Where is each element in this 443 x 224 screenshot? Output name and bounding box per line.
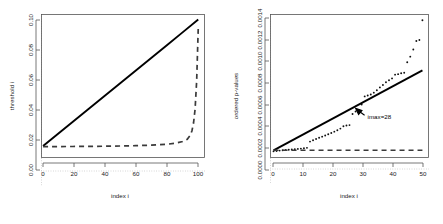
y-tick-label: 0.08 — [27, 43, 34, 56]
x-tick-label: 80 — [164, 170, 171, 177]
x-tick-label: 60 — [133, 170, 140, 177]
imax-arrow-icon — [356, 108, 365, 115]
scatter-point — [388, 79, 390, 81]
scatter-point — [309, 141, 311, 143]
scatter-point — [303, 147, 305, 149]
y-tick-label: 0.06 — [27, 73, 34, 86]
scatter-point — [394, 74, 396, 76]
scatter-point — [288, 149, 290, 151]
plot-frame-left — [42, 15, 205, 158]
scatter-point — [385, 81, 387, 83]
scatter-point — [315, 138, 317, 140]
x-ticks-left — [43, 163, 198, 167]
scatter-point — [403, 72, 405, 74]
scatter-point — [397, 73, 399, 75]
x-tick-label: 100 — [193, 170, 204, 177]
scatter-point — [376, 89, 378, 91]
scatter-point — [318, 137, 320, 139]
y-tick-label: 0.0000 — [256, 160, 263, 179]
y-tick-label: 0.0010 — [256, 51, 263, 70]
y-tick-label: 0.04 — [27, 103, 34, 116]
series-hochberg-left — [43, 29, 198, 147]
scatter-point — [352, 113, 354, 115]
scatter-point — [370, 94, 372, 96]
scatter-point — [349, 124, 351, 126]
scatter-point — [333, 131, 335, 133]
scatter-point — [355, 111, 357, 113]
scatter-point — [412, 49, 414, 51]
arrow-head — [356, 108, 362, 114]
y-axis-title-right: ordered p-values — [232, 73, 239, 119]
scatter-point — [373, 92, 375, 94]
scatter-point — [336, 129, 338, 131]
scatter-point — [346, 125, 348, 127]
x-tick-label: 40 — [390, 170, 397, 177]
scatter-point — [406, 61, 408, 63]
scatter-point — [339, 128, 341, 130]
y-tick-label: 0.0004 — [256, 116, 263, 135]
scatter-point — [418, 39, 420, 41]
y-tick-label: 0.0002 — [256, 138, 263, 157]
scatter-point — [367, 95, 369, 97]
x-tick-label: 50 — [420, 170, 427, 177]
scatter-point — [409, 56, 411, 58]
scatter-point — [379, 86, 381, 88]
scatter-point — [297, 148, 299, 150]
y-tick-label: 0.0014 — [256, 8, 263, 27]
scatter-point — [330, 132, 332, 134]
left-panel-svg: 0.00 0.02 0.04 0.06 0.08 0.10 threshold … — [0, 0, 222, 224]
scatter-point — [321, 136, 323, 138]
y-ticks-left — [36, 20, 40, 170]
scatter-point — [382, 84, 384, 86]
figure-canvas: 0.00 0.02 0.04 0.06 0.08 0.10 threshold … — [0, 0, 443, 224]
x-tick-label: 20 — [71, 170, 78, 177]
y-ticks-right — [265, 18, 269, 170]
plot-frame-right — [271, 15, 429, 158]
y-tick-label: 0.00 — [27, 163, 34, 176]
scatter-point — [306, 147, 308, 149]
chart-panel-left: 0.00 0.02 0.04 0.06 0.08 0.10 threshold … — [0, 0, 222, 224]
imax-annotation-label: imax=28 — [368, 113, 392, 120]
y-tick-label: 0.0008 — [256, 73, 263, 92]
y-tick-label: 0.10 — [27, 13, 34, 26]
scatter-point — [300, 148, 302, 150]
scatter-point — [279, 150, 281, 152]
x-tick-label: 30 — [360, 170, 367, 177]
y-tick-label: 0.02 — [27, 133, 34, 146]
scatter-point — [312, 139, 314, 141]
scatter-points-ordered-pvalues — [273, 19, 424, 152]
scatter-point — [421, 19, 423, 21]
series-bh-linear-left — [43, 20, 198, 146]
chart-panel-right: 0.0000 0.0002 0.0004 0.0006 0.0008 0.001… — [222, 0, 443, 224]
scatter-point — [342, 125, 344, 127]
scatter-point — [415, 40, 417, 42]
x-tick-label: 20 — [330, 170, 337, 177]
scatter-point — [391, 77, 393, 79]
x-ticks-right — [273, 163, 423, 167]
x-tick-label: 40 — [102, 170, 109, 177]
x-tick-label: 10 — [300, 170, 307, 177]
scatter-point — [400, 72, 402, 74]
x-tick-label: 0 — [271, 170, 275, 177]
right-panel-svg: 0.0000 0.0002 0.0004 0.0006 0.0008 0.001… — [222, 0, 443, 224]
scatter-point — [364, 95, 366, 97]
x-tick-label: 0 — [41, 170, 45, 177]
x-axis-title-right: index i — [340, 192, 358, 199]
y-axis-title-left: threshold i — [8, 82, 15, 111]
x-axis-title-left: index i — [111, 192, 129, 199]
series-bh-linear-right — [274, 70, 423, 150]
scatter-point — [324, 135, 326, 137]
y-tick-label: 0.0006 — [256, 95, 263, 114]
y-tick-label: 0.0012 — [256, 30, 263, 49]
scatter-point — [327, 133, 329, 135]
